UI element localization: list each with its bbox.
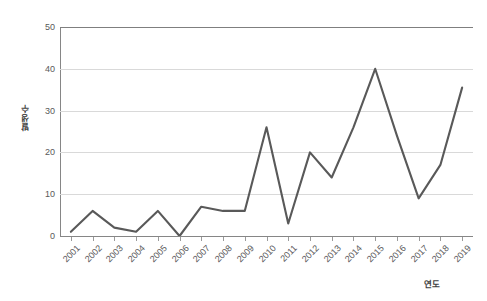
x-tick-2009 [245, 237, 246, 241]
x-tick-2001 [71, 237, 72, 241]
x-tick-label-2014: 2014 [343, 243, 364, 264]
x-tick-2012 [310, 237, 311, 241]
x-tick-label-2011: 2011 [279, 243, 300, 264]
x-tick-label-2015: 2015 [365, 243, 386, 264]
x-tick-2016 [397, 237, 398, 241]
x-tick-label-2007: 2007 [191, 243, 212, 264]
x-tick-label-2012: 2012 [300, 243, 321, 264]
x-tick-2018 [440, 237, 441, 241]
x-tick-2013 [332, 237, 333, 241]
x-tick-label-2017: 2017 [408, 243, 429, 264]
y-tick-label-50: 50 [33, 22, 55, 32]
x-tick-label-2019: 2019 [452, 243, 473, 264]
data-series-line [60, 27, 473, 236]
x-tick-2006 [180, 237, 181, 241]
x-tick-2008 [223, 237, 224, 241]
x-tick-label-2006: 2006 [169, 243, 190, 264]
x-tick-2004 [136, 237, 137, 241]
x-tick-label-2001: 2001 [61, 243, 82, 264]
plot-area [60, 27, 473, 236]
x-tick-label-2005: 2005 [148, 243, 169, 264]
x-tick-2005 [158, 237, 159, 241]
y-tick-label-0: 0 [33, 231, 55, 241]
x-tick-label-2018: 2018 [430, 243, 451, 264]
x-tick-2015 [375, 237, 376, 241]
x-tick-label-2004: 2004 [126, 243, 147, 264]
x-tick-2003 [114, 237, 115, 241]
y-axis-tick-labels: 01020304050 [33, 0, 55, 301]
x-tick-2014 [353, 237, 354, 241]
x-tick-2011 [288, 237, 289, 241]
x-tick-2019 [462, 237, 463, 241]
y-tick-label-30: 30 [33, 106, 55, 116]
x-tick-label-2010: 2010 [256, 243, 277, 264]
x-tick-label-2008: 2008 [213, 243, 234, 264]
x-tick-2010 [267, 237, 268, 241]
x-tick-label-2003: 2003 [104, 243, 125, 264]
x-tick-label-2002: 2002 [82, 243, 103, 264]
x-tick-label-2013: 2013 [322, 243, 343, 264]
x-axis-title: 연도 [424, 277, 440, 289]
x-tick-2002 [93, 237, 94, 241]
y-tick-label-10: 10 [33, 189, 55, 199]
y-tick-label-20: 20 [33, 147, 55, 157]
x-tick-label-2009: 2009 [235, 243, 256, 264]
y-tick-label-40: 40 [33, 64, 55, 74]
x-tick-2007 [201, 237, 202, 241]
line-chart: 발생수 01020304050 200120022003200420052006… [0, 0, 487, 301]
x-tick-label-2016: 2016 [387, 243, 408, 264]
x-tick-2017 [419, 237, 420, 241]
